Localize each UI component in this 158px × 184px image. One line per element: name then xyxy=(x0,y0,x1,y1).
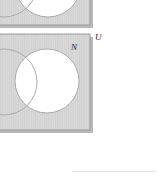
set-label-n: N xyxy=(71,43,77,52)
footer-divider-rule xyxy=(72,171,156,172)
universal-set-label-u: U xyxy=(95,33,102,42)
upper-venn-diagram xyxy=(0,0,93,28)
venn-diagram-figure xyxy=(0,0,158,184)
lower-venn-diagram xyxy=(0,34,93,133)
